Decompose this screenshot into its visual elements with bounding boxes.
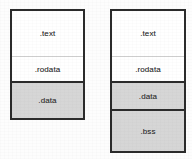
section-data-left: .data	[12, 81, 83, 118]
section-text-right: .text	[112, 11, 184, 56]
section-label-bss-right: .bss	[140, 127, 155, 136]
section-label-data-right: .data	[139, 92, 157, 101]
section-text-left: .text	[12, 11, 83, 56]
section-rodata-right: .rodata	[112, 56, 184, 81]
diagram-canvas: .text .rodata .data .text .rodata .data …	[0, 0, 192, 159]
section-label-rodata-right: .rodata	[135, 65, 161, 74]
section-label-rodata-left: .rodata	[35, 65, 61, 74]
section-label-text-left: .text	[40, 29, 56, 38]
memory-layout-box-right: .text .rodata .data .bss	[110, 9, 186, 153]
section-label-data-left: .data	[38, 96, 56, 105]
section-rodata-left: .rodata	[12, 56, 83, 81]
section-data-right: .data	[112, 81, 184, 109]
section-bss-right: .bss	[112, 109, 184, 151]
section-label-text-right: .text	[140, 29, 156, 38]
memory-layout-box-left: .text .rodata .data	[10, 9, 85, 120]
